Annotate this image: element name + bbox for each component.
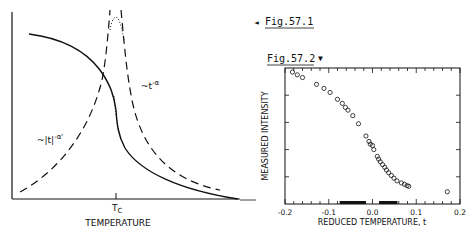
data-point bbox=[340, 101, 344, 105]
right-plot-frame bbox=[285, 68, 460, 204]
data-point bbox=[314, 82, 318, 86]
tc-label: TC bbox=[111, 203, 123, 215]
x-tick-label: -0.1 bbox=[321, 208, 336, 217]
solid-curve bbox=[29, 34, 238, 199]
data-point bbox=[346, 108, 350, 112]
fig-ref-57-1-label: Fig.57.1 bbox=[265, 16, 313, 27]
data-point bbox=[351, 114, 355, 118]
right-chart: -0.2-0.10.00.10.2 REDUCED TEMPERATURE, t… bbox=[261, 68, 466, 227]
left-arrow-icon: ◄ bbox=[254, 18, 259, 27]
data-point bbox=[322, 86, 326, 90]
data-point bbox=[356, 122, 360, 126]
figure-canvas: ~|t|-α' ~t-α TC TEMPERATURE ◄ Fig.57.1 F… bbox=[0, 0, 473, 232]
fig-ref-57-1[interactable]: ◄ Fig.57.1 bbox=[254, 16, 314, 28]
right-ticks bbox=[285, 68, 460, 204]
x-tick-label: -0.2 bbox=[278, 208, 293, 217]
dotted-peak bbox=[110, 17, 124, 40]
left-x-axis-label: TEMPERATURE bbox=[84, 218, 151, 228]
data-point bbox=[295, 73, 299, 77]
x-tick-label: 0.2 bbox=[454, 208, 466, 217]
axis-bar bbox=[340, 201, 366, 204]
data-point bbox=[328, 90, 332, 94]
dashed-curve-below-tc bbox=[20, 10, 110, 192]
dashed-curve-above-tc bbox=[121, 10, 220, 190]
data-point bbox=[335, 97, 339, 101]
data-point bbox=[395, 179, 399, 183]
right-x-tick-labels: -0.2-0.10.00.10.2 bbox=[278, 208, 467, 217]
right-y-axis-label: MEASURED INTENSITY bbox=[261, 91, 270, 180]
left-chart: ~|t|-α' ~t-α TC TEMPERATURE bbox=[12, 10, 240, 228]
right-data-points bbox=[290, 70, 449, 194]
data-point bbox=[372, 148, 376, 152]
fig-ref-57-2[interactable]: Fig.57.2 ▼ bbox=[267, 53, 323, 65]
x-tick-label: 0.0 bbox=[367, 208, 379, 217]
right-x-axis-label: REDUCED TEMPERATURE, t bbox=[318, 218, 426, 227]
annotation-below-tc: ~|t|-α' bbox=[37, 133, 63, 145]
axis-bar bbox=[379, 201, 397, 204]
data-point bbox=[445, 190, 449, 194]
data-point bbox=[300, 75, 304, 79]
data-point bbox=[380, 162, 384, 166]
annotation-above-tc: ~t-α bbox=[141, 79, 160, 91]
x-tick-label: 0.1 bbox=[410, 208, 422, 217]
fig-ref-57-2-label: Fig.57.2 bbox=[267, 53, 315, 64]
down-arrow-icon: ▼ bbox=[318, 54, 323, 63]
data-point bbox=[364, 134, 368, 138]
data-point bbox=[290, 70, 294, 74]
